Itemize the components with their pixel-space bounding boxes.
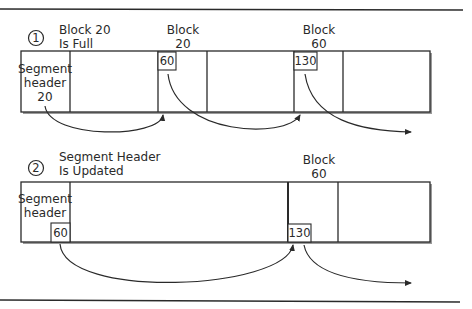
segment-header-line2: header — [24, 206, 66, 220]
top-rule — [0, 9, 463, 10]
step1-caption-line1: Block 20 — [59, 23, 111, 37]
step2-caption-line1: Segment Header — [59, 150, 161, 164]
block-60-label-line1: Block — [303, 153, 336, 167]
segment-bar-2 — [21, 182, 430, 242]
step-number-1: 1 — [32, 31, 39, 45]
segment-bar-1 — [21, 51, 430, 112]
arrow-block60-onward — [304, 245, 411, 283]
bottom-rule — [0, 300, 460, 302]
pointer-60: 60 — [160, 54, 175, 68]
free-list-diagram: 1 Block 20 Is Full Block 20 Block 60 Seg… — [0, 0, 472, 309]
step-2: 2 Segment Header Is Updated Block 60 Seg… — [18, 150, 432, 283]
block-60-label-line1: Block — [303, 23, 336, 37]
block-60-label-line2: 60 — [311, 167, 326, 181]
step2-caption-line2: Is Updated — [59, 164, 124, 178]
block-20-label-line1: Block — [167, 23, 200, 37]
step-1: 1 Block 20 Is Full Block 20 Block 60 Seg… — [18, 23, 432, 132]
segment-header-line1: Segment — [18, 62, 72, 76]
block-60-label-line2: 60 — [311, 37, 326, 51]
header-pointer-60: 60 — [53, 226, 68, 240]
step-number-2: 2 — [32, 161, 39, 175]
step1-caption-line2: Is Full — [59, 37, 93, 51]
segment-header-line1: Segment — [18, 192, 72, 206]
segment-header-line3: 20 — [37, 90, 52, 104]
pointer-130: 130 — [289, 226, 311, 240]
segment-header-line2: header — [24, 76, 66, 90]
arrow-header-to-block60 — [60, 244, 293, 282]
block-20-label-line2: 20 — [175, 37, 190, 51]
pointer-130: 130 — [295, 54, 317, 68]
